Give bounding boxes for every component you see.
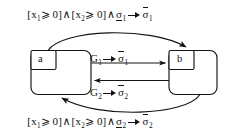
conjunction-2: ∧: [106, 8, 115, 20]
state-a-label-box: [31, 51, 56, 70]
transition-b-to-a-curve[interactable]: [62, 95, 200, 113]
transition-label-g1: G1σ1: [90, 53, 128, 64]
relation-1: ⩾ 0]: [41, 115, 62, 127]
event-sigma-subscript: 2: [122, 122, 126, 130]
event-g2-subscript: 2: [98, 93, 102, 101]
transition-label-bottom-guard: [x1⩾ 0]∧[x2⩾ 0]∧σ2σ2: [27, 116, 153, 127]
event-g1-subscript: 1: [98, 59, 102, 67]
implies-arrow-icon: [103, 89, 116, 98]
implies-arrow-icon: [128, 11, 141, 20]
implies-arrow-icon: [128, 118, 141, 127]
action-sigma-subscript: 2: [149, 122, 153, 130]
transition-a-to-b-curve[interactable]: [48, 33, 186, 51]
relation-1: ⩾ 0]: [41, 8, 62, 20]
event-g2: G: [90, 86, 98, 98]
variable-x2-subscript: 2: [81, 15, 85, 23]
state-transition-diagram: a b [x1⩾ 0]∧[x2⩾ 0]∧σ1σ1 G1σ1 G2σ2 [x1⩾ …: [0, 0, 233, 140]
implies-arrow-icon: [103, 55, 116, 64]
variable-x1-subscript: 1: [37, 15, 41, 23]
event-sigma-subscript: 1: [122, 15, 126, 23]
event-g1: G: [90, 52, 98, 64]
relation-2: ⩾ 0]: [85, 115, 106, 127]
transition-label-g2: G2σ2: [90, 87, 128, 98]
action-sigma-subscript: 2: [124, 93, 128, 101]
action-sigma-overlined: σ: [142, 116, 149, 127]
variable-x1-subscript: 1: [37, 122, 41, 130]
conjunction-1: ∧: [62, 8, 71, 20]
action-sigma-subscript: 1: [149, 15, 153, 23]
action-sigma-subscript: 1: [124, 59, 128, 67]
relation-2: ⩾ 0]: [85, 8, 106, 20]
conjunction-1: ∧: [62, 115, 71, 127]
state-b-label: b: [177, 54, 182, 65]
variable-x1: x: [31, 8, 37, 20]
conjunction-2: ∧: [106, 115, 115, 127]
variable-x2-subscript: 2: [81, 122, 85, 130]
variable-x1: x: [31, 115, 37, 127]
transition-label-top-guard: [x1⩾ 0]∧[x2⩾ 0]∧σ1σ1: [27, 9, 153, 20]
action-sigma-overlined: σ: [142, 9, 149, 20]
state-a-label: a: [38, 54, 43, 65]
